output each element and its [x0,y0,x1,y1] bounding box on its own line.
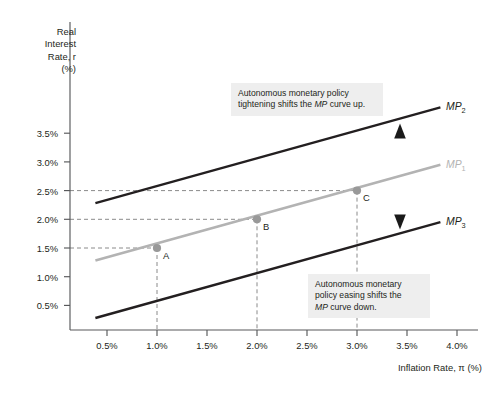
curve-mp1 [95,165,440,261]
x-tick-label-2.5: 2.5% [296,340,317,351]
y-tick-label-0.5: 0.5% [22,300,58,311]
annotation-tightening: Autonomous monetary policytightening shi… [231,83,383,116]
annotation-tightening-line1: Autonomous monetary policy [238,88,349,98]
curve-mp2 [95,107,440,203]
y-tick-label-2.0: 2.0% [22,214,58,225]
y-axis-ticks [64,133,70,305]
y-tick-label-3.5: 3.5% [22,128,58,139]
annotation-easing-line1: Autonomous monetary [315,279,401,289]
curve-label-mp3-sub: 3 [462,221,466,230]
point-label-b: B [263,221,269,232]
x-tick-label-1.0: 1.0% [146,340,167,351]
point-marker-a [153,244,161,252]
annotation-easing: Autonomous monetarypolicy easing shifts … [308,274,430,318]
annotation-tightening-line2-em: MP [314,99,327,109]
point-marker-c [353,187,361,195]
curve-label-mp3: MP3 [446,216,466,227]
annotation-easing-line3-post: curve down. [328,302,377,312]
curve-label-mp2-sub: 2 [462,106,466,115]
x-tick-label-4.0: 4.0% [446,340,467,351]
curve-label-mp1-sub: 1 [462,164,466,173]
curve-label-mp3-text: MP [446,216,462,227]
point-label-c: C [363,192,370,203]
point-label-a: A [163,250,169,261]
x-tick-label-3.0: 3.0% [346,340,367,351]
annotation-easing-line2: policy easing shifts the [315,290,401,300]
shift-up-arrow [394,124,406,179]
point-marker-b [253,215,261,223]
x-tick-label-2.0: 2.0% [246,340,267,351]
mp-curve-figure: Real Interest Rate, r (%) Inflation Rate… [0,0,495,393]
y-axis-title: Real Interest Rate, r (%) [14,26,76,76]
x-tick-label-1.5: 1.5% [196,340,217,351]
y-tick-label-2.5: 2.5% [22,185,58,196]
x-tick-label-0.5: 0.5% [96,340,117,351]
curve-label-mp2: MP2 [446,101,466,112]
curve-label-mp2-text: MP [446,101,462,112]
y-tick-label-3.0: 3.0% [22,156,58,167]
shift-down-arrow [394,182,406,230]
x-axis-title: Inflation Rate, π (%) [330,362,482,374]
annotation-easing-line3-em: MP [315,302,328,312]
curve-label-mp1-text: MP [446,159,462,170]
annotation-tightening-line2-post: curve up. [327,99,365,109]
x-axis-ticks [107,330,457,336]
y-tick-label-1.5: 1.5% [22,243,58,254]
y-tick-label-1.0: 1.0% [22,271,58,282]
x-tick-label-3.5: 3.5% [396,340,417,351]
curve-label-mp1: MP1 [446,159,466,170]
annotation-tightening-line2-pre: tightening shifts the [238,99,314,109]
